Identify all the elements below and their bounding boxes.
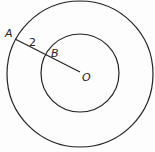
point-label-a: A xyxy=(4,27,13,40)
point-label-o: O xyxy=(82,71,91,84)
segment-length-label: 2 xyxy=(29,36,36,49)
diagram-canvas: A 2 B O xyxy=(0,0,155,152)
concentric-circles-diagram: A 2 B O xyxy=(0,0,155,152)
point-label-b: B xyxy=(51,47,59,60)
outer-circle xyxy=(7,1,153,147)
inner-circle xyxy=(41,34,119,112)
radius-segment-AO xyxy=(15,39,80,72)
